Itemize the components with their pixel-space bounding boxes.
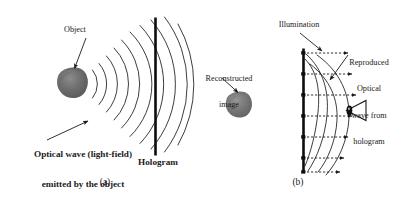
label-reconstructed-image: Reconstructed image (198, 57, 260, 128)
object-pointer-arrow (75, 38, 87, 69)
label-reproduced-line3: wave from (334, 112, 404, 121)
label-reproduced-line4: hologram (334, 138, 404, 147)
label-hologram: Hologram (123, 158, 193, 168)
caption-panel-a: (a) (85, 177, 125, 187)
label-reproduced-line1: Reproduced (334, 59, 404, 68)
label-object: Object (64, 26, 86, 35)
label-reconstructed-line1: Reconstructed (198, 75, 260, 84)
illumination-pointer-arrow (300, 33, 322, 51)
label-reproduced-line2: Optical (334, 85, 404, 94)
hologram-figure: Object Optical wave (light-field) emitte… (0, 0, 407, 201)
caption-panel-b: (b) (278, 177, 318, 187)
label-illumination: Illumination (263, 21, 335, 30)
label-reproduced-optical-wave: Reproduced Optical wave from hologram (334, 41, 404, 165)
label-optical-wave-line2: emitted by the object (8, 180, 158, 190)
object-blob (57, 67, 88, 98)
label-reconstructed-line2: image (198, 101, 260, 110)
